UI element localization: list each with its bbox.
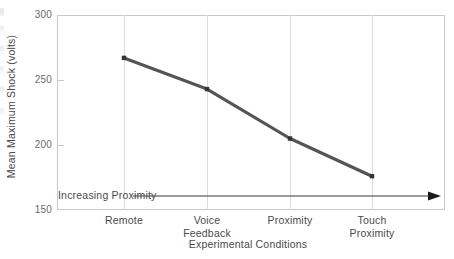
- increasing-proximity-label: Increasing Proximity: [58, 189, 157, 201]
- increasing-proximity-arrow: [133, 192, 441, 201]
- series-marker: [205, 87, 209, 91]
- x-category-label-line1: Touch: [357, 214, 386, 226]
- series-marker: [122, 56, 126, 60]
- x-category-label: TouchProximity: [312, 214, 432, 240]
- chart-container: Mean Maximum Shock (volts) 300250200150 …: [0, 0, 454, 259]
- x-category-label-line1: Remote: [105, 214, 143, 226]
- x-category-label-line1: Proximity: [268, 214, 313, 226]
- series-line-path: [124, 58, 372, 176]
- x-category-label-line1: Voice: [194, 214, 221, 226]
- series-marker: [288, 136, 292, 140]
- series-marker: [370, 174, 374, 178]
- x-axis-title: Experimental Conditions: [124, 238, 372, 250]
